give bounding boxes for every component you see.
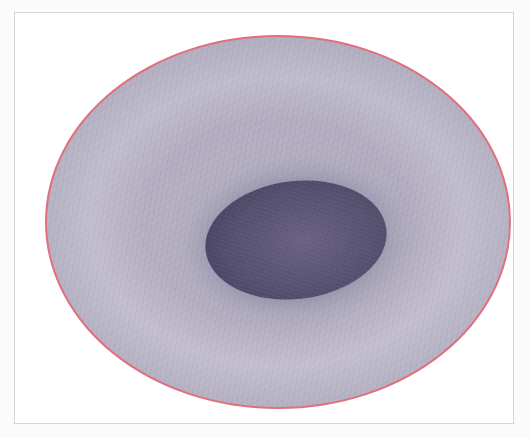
image-frame xyxy=(14,12,514,424)
image-canvas xyxy=(0,0,530,438)
